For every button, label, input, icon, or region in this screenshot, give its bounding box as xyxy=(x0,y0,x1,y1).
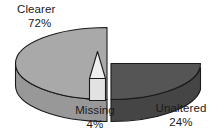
pie-label-clearer-name: Clearer xyxy=(17,3,55,15)
pie-label-missing-percent: 4% xyxy=(58,118,132,132)
pie-label-unaltered-percent: 24% xyxy=(146,116,216,130)
pie-label-missing-name: Missing xyxy=(75,104,115,116)
pie-label-unaltered: Unaltered 24% xyxy=(146,102,216,129)
pie-label-clearer-percent: 72% xyxy=(28,17,55,31)
pie-label-clearer: Clearer 72% xyxy=(17,3,55,30)
pie-label-unaltered-name: Unaltered xyxy=(156,102,207,114)
pie-chart-figure: Clearer 72% Missing 4% Unaltered 24% xyxy=(0,0,218,139)
pie-label-missing: Missing 4% xyxy=(58,104,132,131)
pie-slice-missing-side xyxy=(90,79,106,101)
